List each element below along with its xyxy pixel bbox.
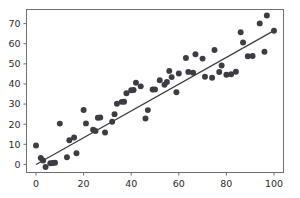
data-point [169,74,175,80]
data-point [112,111,118,117]
data-point [121,99,127,105]
data-point [216,69,222,75]
data-point [157,77,163,83]
y-tick-label: 20 [8,119,20,130]
y-tick-label: 30 [8,98,20,109]
data-point [131,87,137,93]
data-point [71,135,77,141]
data-point [238,29,244,35]
data-point [202,74,208,80]
data-point [209,75,215,81]
data-point [190,70,196,76]
x-tick-label: 0 [33,178,39,189]
x-tick-label: 20 [78,178,90,189]
data-point [250,53,256,59]
y-tick-label: 0 [14,159,20,170]
data-point [219,62,225,68]
data-point [97,115,103,121]
y-tick-label: 70 [8,18,20,29]
data-point [271,28,277,34]
y-tick-label: 10 [8,139,20,150]
scatter-plot-figure: 020406080100 010203040506070 [0,0,300,198]
data-point [192,51,198,57]
data-point [176,71,182,77]
data-point [33,143,39,149]
data-point [257,20,263,26]
data-point [81,107,87,113]
data-point [152,86,158,92]
data-point [240,40,246,46]
data-point [233,69,239,75]
data-point [173,89,179,95]
data-point [64,154,70,160]
data-point [164,79,170,85]
x-tick-label: 40 [125,178,137,189]
x-tick-label: 80 [220,178,232,189]
data-point [40,157,46,163]
y-tick-label: 50 [8,58,20,69]
x-tick-label: 100 [265,178,283,189]
data-point [212,47,218,53]
data-point [133,80,139,86]
data-point [261,49,267,55]
data-point [143,116,149,122]
y-tick-label: 60 [8,38,20,49]
data-point [74,150,80,156]
data-point [102,129,108,135]
data-point [166,68,172,74]
data-point [183,55,189,61]
y-tick-label: 40 [8,78,20,89]
data-point [52,160,58,166]
data-point [57,121,63,127]
data-point [264,13,270,19]
data-point [145,107,151,113]
data-point [93,128,99,134]
chart-canvas: 020406080100 010203040506070 [0,0,300,198]
x-tick-label: 60 [173,178,185,189]
data-point [200,56,206,62]
data-point [83,120,89,126]
data-point [109,119,115,125]
data-point [138,83,144,89]
data-point [43,164,49,170]
